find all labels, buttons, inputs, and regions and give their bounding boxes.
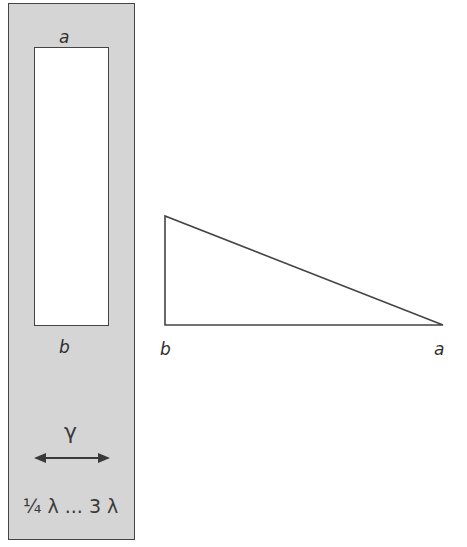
triangle-left-label: b <box>160 339 171 359</box>
triangle-shape <box>165 216 443 325</box>
triangle-right-label: a <box>434 339 444 359</box>
double-arrow-icon <box>34 453 110 463</box>
diagram-graphics <box>0 0 467 547</box>
